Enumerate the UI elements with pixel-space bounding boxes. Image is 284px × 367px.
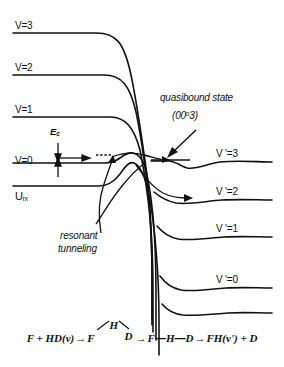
curve-vp3 xyxy=(151,161,272,168)
level-label-v2: V=2 xyxy=(15,62,32,73)
ec-subscript: c xyxy=(56,130,59,137)
bent-d: D xyxy=(125,330,133,342)
quasibound-leader-line xyxy=(173,130,196,152)
urx-base: U xyxy=(15,190,23,202)
urx-label: Urx xyxy=(15,190,28,202)
quantum-pre: (00 xyxy=(172,110,186,121)
quasibound-state-label: quasibound state xyxy=(160,92,233,103)
level-label-vp3: V '=3 xyxy=(216,148,238,159)
curve-v1 xyxy=(13,117,153,332)
linear-f: F xyxy=(148,332,155,344)
level-label-vp0: V '=0 xyxy=(216,274,238,285)
potential-energy-diagram: V=3 V=2 V=1 V=0 Urx Ec V '=3 V '=2 V '=1… xyxy=(0,0,284,367)
reaction-equation: F + HD(v)→FHD→F—H—D→FH(v') + D xyxy=(0,330,284,344)
quasibound-state-quantum-numbers: (00o3) xyxy=(172,110,198,121)
linear-dash-1: — xyxy=(155,332,166,344)
curve-v3 xyxy=(13,33,152,320)
quantum-post: 3) xyxy=(189,110,198,121)
level-label-v1: V=1 xyxy=(15,104,32,115)
linear-h: H xyxy=(166,332,175,344)
bent-structure: HD xyxy=(95,330,135,342)
resonant-tunneling-arrow-curve xyxy=(99,161,112,233)
curve-v2 xyxy=(13,75,152,325)
urx-subscript: rx xyxy=(23,195,28,202)
equation-arrow-2: → xyxy=(135,332,148,344)
ec-label: Ec xyxy=(50,126,60,137)
level-label-vp2: V '=2 xyxy=(216,186,238,197)
equation-reactant: F + HD(v) xyxy=(27,332,75,344)
resonant-tunneling-label-line2: tunneling xyxy=(58,243,97,254)
ec-right-arrow-head xyxy=(82,155,90,161)
curve-vp1 xyxy=(157,226,272,240)
decay-arrow-to-vp2-head xyxy=(184,194,193,202)
curve-product-base xyxy=(162,304,272,315)
curve-vp2 xyxy=(154,192,272,204)
level-label-vp1: V '=1 xyxy=(216,223,238,234)
linear-dash-2: — xyxy=(175,332,186,344)
level-label-v0: V=0 xyxy=(15,155,32,166)
equation-bent-complex: FHD xyxy=(87,332,134,344)
bent-h: H xyxy=(110,319,119,331)
resonant-tunneling-label-line1: resonant xyxy=(60,230,97,241)
tunnel-arrow-to-vp3-head xyxy=(162,156,170,163)
curve-urx xyxy=(13,163,159,355)
equation-product: FH(v') + D xyxy=(206,332,257,344)
diagram-curves xyxy=(0,0,284,367)
level-label-v3: V=3 xyxy=(15,20,32,31)
equation-arrow-3: → xyxy=(193,332,206,344)
bent-f: F xyxy=(87,332,94,344)
equation-arrow-1: → xyxy=(74,332,87,344)
ec-arrow-head-up xyxy=(55,158,61,166)
